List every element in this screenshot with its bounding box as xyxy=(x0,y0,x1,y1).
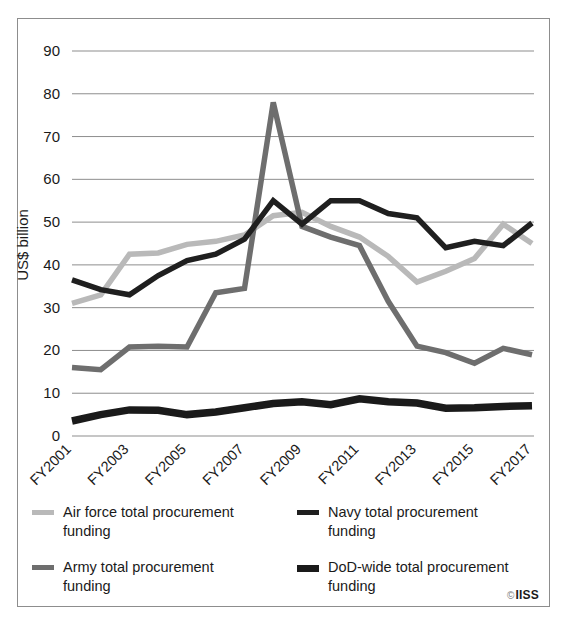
x-tick-label: FY2015 xyxy=(429,441,476,488)
chart-plot-area: 0102030405060708090 FY2001FY2003FY2005FY… xyxy=(0,0,567,500)
y-tick-label: 70 xyxy=(43,128,60,145)
credit-org: IISS xyxy=(516,588,539,602)
x-tick-label: FY2007 xyxy=(199,441,246,488)
y-tick-label: 90 xyxy=(43,42,60,59)
legend-grid: Air force total procurement fundingNavy … xyxy=(18,497,549,613)
y-tick-label: 20 xyxy=(43,341,60,358)
y-tick-label: 80 xyxy=(43,85,60,102)
legend-item[interactable]: DoD-wide total procurement funding xyxy=(297,558,562,613)
series-line xyxy=(72,102,532,369)
x-tick-label: FY2005 xyxy=(142,441,189,488)
y-axis-title: US$ billion xyxy=(14,209,31,281)
copyright-symbol: © xyxy=(507,590,515,601)
y-axis-tick-labels: 0102030405060708090 xyxy=(43,42,60,444)
y-tick-label: 30 xyxy=(43,299,60,316)
figure-container: 0102030405060708090 FY2001FY2003FY2005FY… xyxy=(0,0,567,624)
legend-item-label: Navy total procurement funding xyxy=(328,503,528,541)
series-line xyxy=(72,399,532,421)
y-tick-label: 0 xyxy=(52,427,60,444)
y-tick-label: 60 xyxy=(43,170,60,187)
x-tick-label: FY2001 xyxy=(27,441,74,488)
legend-item-label: Army total procurement funding xyxy=(63,558,263,596)
legend-color-swatch xyxy=(32,510,54,515)
data-series-group xyxy=(72,102,532,421)
legend-item-label: Air force total procurement funding xyxy=(63,503,263,541)
x-tick-label: FY2013 xyxy=(372,441,419,488)
chart-legend: Air force total procurement fundingNavy … xyxy=(18,497,549,607)
x-tick-label: FY2003 xyxy=(84,441,131,488)
legend-item[interactable]: Air force total procurement funding xyxy=(32,503,297,558)
x-tick-label: FY2009 xyxy=(257,441,304,488)
x-axis-tick-labels: FY2001FY2003FY2005FY2007FY2009FY2011FY20… xyxy=(27,441,534,488)
y-tick-label: 40 xyxy=(43,256,60,273)
legend-color-swatch xyxy=(32,565,54,570)
copyright-credit: ©IISS xyxy=(507,588,539,602)
x-tick-label: FY2017 xyxy=(487,441,534,488)
y-tick-label: 10 xyxy=(43,384,60,401)
legend-item-label: DoD-wide total procurement funding xyxy=(328,558,528,596)
line-chart-svg: 0102030405060708090 FY2001FY2003FY2005FY… xyxy=(0,0,567,500)
legend-item[interactable]: Navy total procurement funding xyxy=(297,503,562,558)
legend-item[interactable]: Army total procurement funding xyxy=(32,558,297,613)
x-tick-label: FY2011 xyxy=(315,441,361,487)
y-tick-label: 50 xyxy=(43,213,60,230)
legend-color-swatch xyxy=(297,510,319,515)
legend-color-swatch xyxy=(297,565,319,572)
